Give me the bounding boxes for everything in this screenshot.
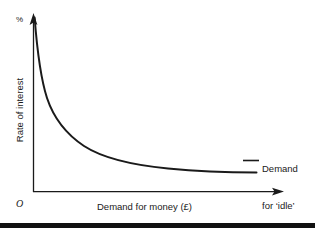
curve-annotation-line-1: Demand	[262, 163, 300, 175]
y-axis-unit-label: %	[16, 16, 23, 24]
origin-label: O	[16, 199, 23, 210]
demand-for-idle-balances-curve	[35, 18, 257, 173]
y-axis-title: Rate of interest	[15, 65, 25, 155]
curve-annotation: Demand for ‘idle’ balances	[262, 139, 300, 232]
bottom-rule-divider	[0, 223, 315, 228]
curve-annotation-line-2: for ‘idle’	[262, 200, 300, 212]
figure-container: % Rate of interest Demand for money (£) …	[0, 0, 315, 232]
x-axis-title: Demand for money (£)	[97, 202, 192, 212]
